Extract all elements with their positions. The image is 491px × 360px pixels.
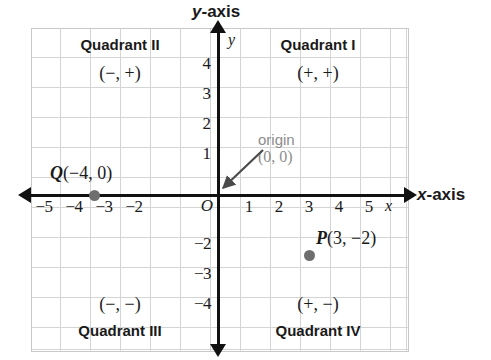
quadrant-iv-signs: (+, −)	[248, 294, 388, 315]
x-axis-caption-suffix: -axis	[426, 185, 465, 204]
y-tick-label-1: 1	[185, 144, 211, 164]
plotted-point-p-label: P(3, −2)	[316, 228, 376, 249]
coordinate-plane-figure: y-axis x-axis −5 −4 −3 −2 1 2 3 4 5 4 3 …	[0, 0, 491, 360]
plotted-point-p-coords: (3, −2)	[327, 228, 376, 248]
quadrant-ii-signs: (−, +)	[50, 63, 190, 84]
y-tick-label-3: 3	[185, 84, 211, 104]
plotted-point-q-dot	[89, 190, 100, 201]
y-tick-label--3: −3	[179, 264, 211, 284]
quadrant-i-signs: (+, +)	[248, 63, 388, 84]
origin-letter-label: O	[196, 196, 218, 216]
x-tick-label-1: 1	[234, 197, 264, 217]
x-tick-label-2: 2	[264, 197, 294, 217]
origin-pointer-arrow-icon	[215, 148, 267, 198]
plotted-point-q-coords: (−4, 0)	[63, 163, 112, 183]
quadrant-i-name: Quadrant I	[248, 36, 388, 53]
x-axis-variable-label: x	[385, 197, 392, 215]
quadrant-iii-signs: (−, −)	[50, 294, 190, 315]
x-axis-right-arrowhead-icon	[404, 187, 417, 203]
origin-callout-title: origin	[258, 131, 295, 148]
x-tick-label-3: 3	[294, 197, 324, 217]
x-tick-label--2: −2	[119, 197, 149, 217]
y-tick-label-2: 2	[185, 114, 211, 134]
plotted-point-q-name: Q	[50, 163, 63, 183]
x-tick-label--5: −5	[29, 197, 59, 217]
x-axis-caption: x-axis	[417, 185, 465, 205]
y-tick-label--2: −2	[179, 234, 211, 254]
plotted-point-p-name: P	[316, 228, 327, 248]
quadrant-iv-name: Quadrant IV	[248, 322, 388, 339]
plotted-point-p-dot	[304, 250, 315, 261]
y-axis-down-arrowhead-icon	[210, 344, 226, 357]
x-tick-label-4: 4	[324, 197, 354, 217]
quadrant-iii-name: Quadrant III	[50, 322, 190, 339]
x-tick-label-5: 5	[354, 197, 384, 217]
plotted-point-q-label: Q(−4, 0)	[50, 163, 112, 184]
y-axis-up-arrowhead-icon	[210, 20, 226, 33]
y-axis-caption-suffix: -axis	[201, 2, 240, 21]
x-tick-label--4: −4	[59, 197, 89, 217]
quadrant-ii-name: Quadrant II	[50, 36, 190, 53]
y-axis-caption: y-axis	[192, 2, 240, 22]
y-axis-variable-label: y	[228, 31, 235, 49]
